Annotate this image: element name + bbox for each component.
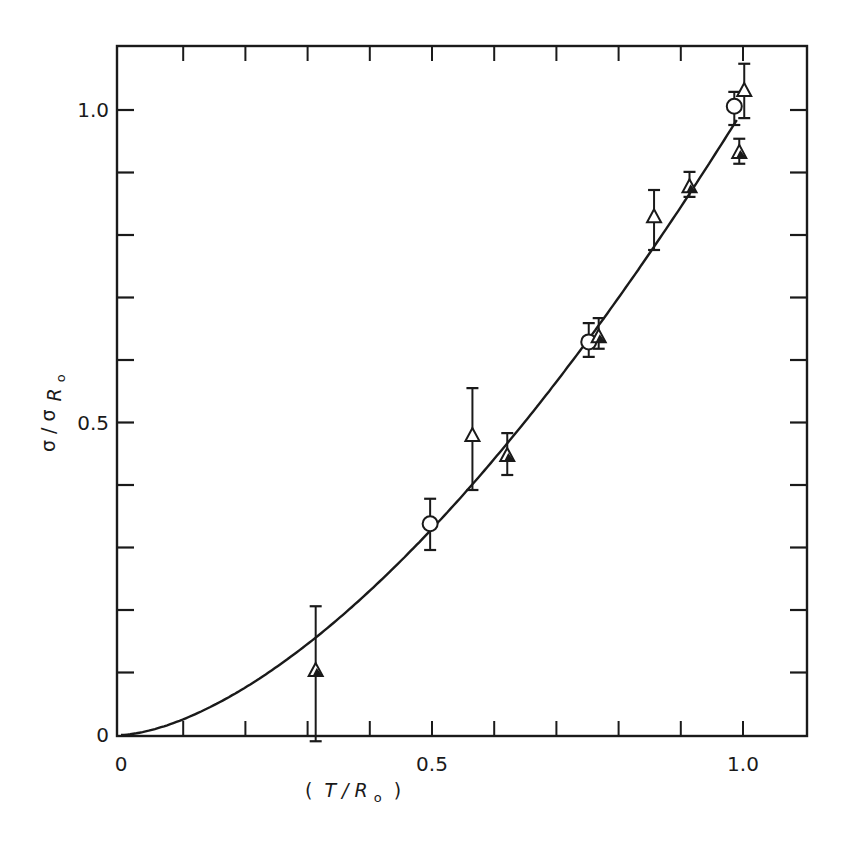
triangle-open-marker-icon [647,209,661,222]
y-tick-label: 0 [96,723,109,747]
x-tick-label: 0 [115,752,128,776]
y-tick-label: 1.0 [77,98,109,122]
circle-marker-icon [423,516,438,531]
y-axis-label: σ / σ R o [37,374,68,452]
data-point-triangle-filled [732,139,746,164]
x-tick-label: 1.0 [727,752,759,776]
circle-marker-icon [727,99,742,114]
x-tick-label: 0.5 [416,752,448,776]
y-tick-labels: 00.51.0 [77,98,109,747]
y-tick-label: 0.5 [77,411,109,435]
data-point-triangle-filled [500,433,514,475]
data-points [309,64,752,742]
plot-border [117,46,807,736]
data-point-circle-open [423,499,438,550]
chart: 00.51.0 00.51.0 ( T / R o ) σ / σ R o [0,0,848,849]
x-axis-label: ( T / R o ) [305,779,401,806]
x-tick-labels: 00.51.0 [115,752,759,776]
fit-curve-line [121,120,737,735]
triangle-open-marker-icon [465,428,479,441]
x-axis-ticks [183,46,743,736]
fit-curve [121,120,737,735]
data-point-triangle-filled [309,606,323,741]
data-point-triangle-open [465,388,479,490]
y-axis-ticks [117,110,807,673]
plot-frame [117,46,807,736]
triangle-open-marker-icon [737,83,751,96]
